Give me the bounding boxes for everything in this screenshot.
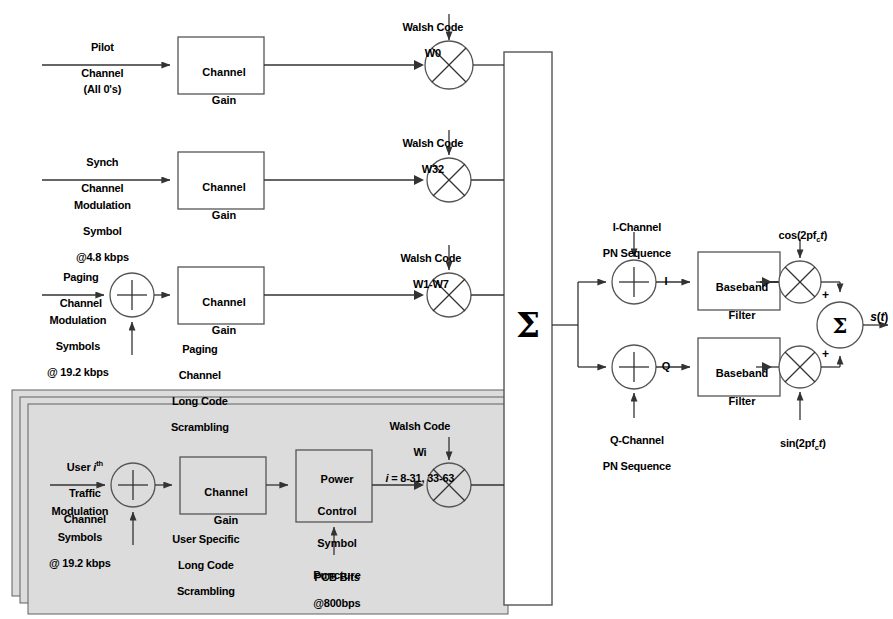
paging-walsh-code-label: Walsh Code W1-W7 <box>366 239 490 291</box>
q-baseband-filter-label: Baseband Filter <box>698 352 780 408</box>
traffic-channel-gain-label: Channel Gain <box>180 471 266 527</box>
i-branch-label: I <box>654 262 672 288</box>
synch-walsh-code-label: Walsh Code W32 <box>370 124 490 176</box>
traffic-channel-detail: Modulation Symbols @ 19.2 kbps <box>24 492 130 570</box>
sin-carrier-label: sin(2pfct) <box>752 424 848 454</box>
traffic-long-code-scrambling-label: User Specific Long Code Scrambling <box>143 520 263 598</box>
traffic-walsh-code-label: Walsh Code Wi i = 8-31, 33-63 <box>355 407 479 485</box>
cos-carrier-label: cos(2pfct) <box>752 216 848 246</box>
paging-long-code-scrambling-label: Paging Channel Long Code Scrambling <box>142 330 252 434</box>
traffic-user-index-ordinal: th <box>96 459 103 468</box>
paging-channel-gain-label: Channel Gain <box>178 281 264 337</box>
paging-channel-detail: Modulation Symbols @ 19.2 kbps <box>22 301 128 379</box>
i-channel-pn-sequence-label: I-Channel PN Sequence <box>572 208 696 260</box>
main-summer-symbol: Σ <box>504 305 552 345</box>
i-baseband-filter-label: Baseband Filter <box>698 266 780 322</box>
synch-channel-detail: Modulation Symbol @4.8 kbps <box>42 186 157 264</box>
output-signal-label: s(t) <box>856 298 893 324</box>
summer-plus-bottom: + <box>822 347 829 361</box>
pilot-channel-gain-label: Channel Gain <box>178 51 264 107</box>
pilot-walsh-code-label: Walsh Code W0 <box>370 8 490 60</box>
block-diagram-canvas: Pilot Channel (All 0's) Channel Gain Wal… <box>0 0 893 619</box>
synch-channel-gain-label: Channel Gain <box>178 166 264 222</box>
pcb-bits-label: PCB Bits @800bps <box>284 558 384 610</box>
q-branch-label: Q <box>654 347 672 373</box>
pilot-channel-detail: (All 0's) <box>42 70 157 96</box>
q-channel-pn-sequence-label: Q-Channel PN Sequence <box>572 421 696 473</box>
summer-plus-top: + <box>822 288 829 302</box>
